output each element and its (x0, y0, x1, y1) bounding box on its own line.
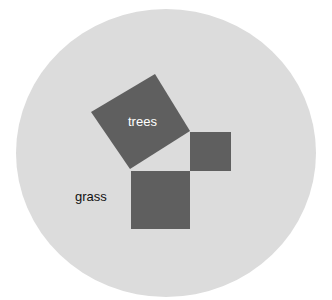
background-circle (16, 9, 316, 297)
small-square (190, 132, 231, 171)
diagram-canvas (0, 0, 332, 300)
large-square (131, 171, 190, 229)
grass-label: grass (75, 190, 107, 203)
trees-label: trees (128, 115, 157, 128)
